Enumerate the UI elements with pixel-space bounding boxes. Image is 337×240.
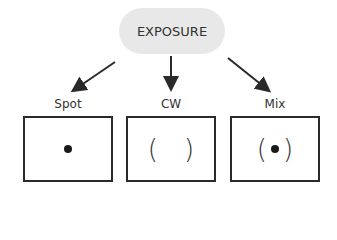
arrow-spot: [74, 62, 115, 90]
close-paren-icon: ): [283, 134, 293, 164]
label-spot: Spot: [38, 97, 98, 111]
open-paren-icon: (: [148, 134, 158, 164]
cw-metering-box: ( ): [126, 116, 216, 182]
arrow-mix: [228, 58, 268, 90]
dot-icon: [64, 145, 72, 153]
label-cw: CW: [141, 97, 201, 111]
close-paren-icon: ): [184, 134, 194, 164]
open-paren-icon: (: [257, 134, 267, 164]
spot-metering-box: [23, 116, 113, 182]
mix-metering-box: ( ): [230, 116, 320, 182]
label-mix: Mix: [245, 97, 305, 111]
dot-icon: [271, 145, 279, 153]
